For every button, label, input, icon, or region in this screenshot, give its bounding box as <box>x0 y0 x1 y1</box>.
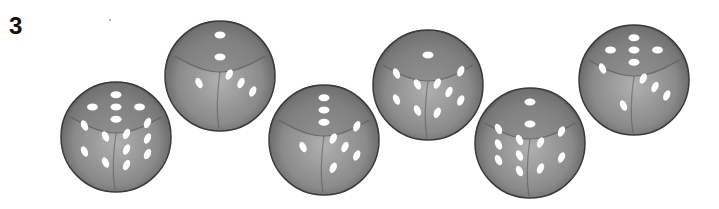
die-2 <box>161 16 279 134</box>
pip <box>134 104 145 111</box>
die-4-top-face <box>423 52 434 59</box>
pip <box>111 104 122 111</box>
pip <box>111 116 122 123</box>
die-6 <box>575 20 693 138</box>
pip <box>87 104 98 111</box>
pip <box>423 52 434 59</box>
pip <box>215 54 226 61</box>
pip <box>319 107 330 114</box>
pip <box>629 47 640 54</box>
pip <box>629 59 640 66</box>
pip <box>525 121 536 128</box>
pip <box>319 94 330 101</box>
pip <box>525 99 536 106</box>
exercise-number: 3 <box>9 12 22 40</box>
pip <box>319 119 330 126</box>
die-1 <box>57 77 175 195</box>
pip <box>605 47 616 54</box>
pip <box>629 34 640 41</box>
pip <box>652 47 663 54</box>
pip <box>215 32 226 39</box>
die-4 <box>369 25 487 143</box>
die-5 <box>471 83 589 201</box>
print-speck <box>109 19 111 21</box>
die-3-top-face <box>319 94 330 126</box>
die-3 <box>265 80 383 198</box>
pip <box>111 91 122 98</box>
